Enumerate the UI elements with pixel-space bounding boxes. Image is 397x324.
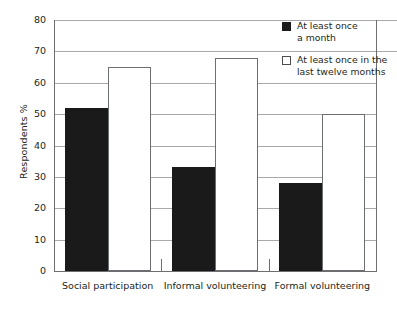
legend-label-monthly-line1: At least once [297, 20, 358, 31]
category-separator-1 [161, 259, 162, 271]
legend-label-twelve-months: At least once in the last twelve months [297, 54, 387, 77]
y-tick-label-60: 60 [16, 78, 46, 88]
category-separator-2 [269, 259, 270, 271]
bar-monthly-3 [279, 183, 322, 271]
y-tick-label-70: 70 [16, 46, 46, 56]
legend: At least once a month At least once in t… [282, 20, 394, 88]
bar-twelve-months-2 [215, 58, 258, 271]
y-tick-label-20: 20 [16, 203, 46, 213]
y-tick-label-30: 30 [16, 172, 46, 182]
legend-label-monthly-line2: a month [297, 32, 336, 43]
y-tick-label-10: 10 [16, 235, 46, 245]
y-tick-label-50: 50 [16, 109, 46, 119]
x-axis-line [54, 271, 377, 272]
bar-monthly-2 [172, 167, 215, 271]
y-tick-label-0: 0 [16, 266, 46, 276]
legend-label-twelve-months-line1: At least once in the [297, 54, 387, 65]
y-axis-line [54, 20, 55, 271]
legend-swatch-hollow-icon [282, 56, 291, 65]
bar-monthly-1 [65, 108, 108, 271]
category-label-3: Formal volunteering [269, 280, 376, 291]
legend-item-monthly: At least once a month [282, 20, 394, 43]
bar-twelve-months-3 [322, 114, 365, 271]
y-tick-label-80: 80 [16, 15, 46, 25]
bar-chart: Respondents % 01020304050607080 Social p… [0, 0, 397, 324]
legend-label-monthly: At least once a month [297, 20, 358, 43]
legend-item-twelve-months: At least once in the last twelve months [282, 54, 394, 77]
legend-label-twelve-months-line2: last twelve months [297, 66, 385, 77]
legend-swatch-filled-icon [282, 22, 291, 31]
category-label-2: Informal volunteering [161, 280, 268, 291]
bar-twelve-months-1 [108, 67, 151, 271]
category-label-1: Social participation [54, 280, 161, 291]
y-tick-label-40: 40 [16, 141, 46, 151]
